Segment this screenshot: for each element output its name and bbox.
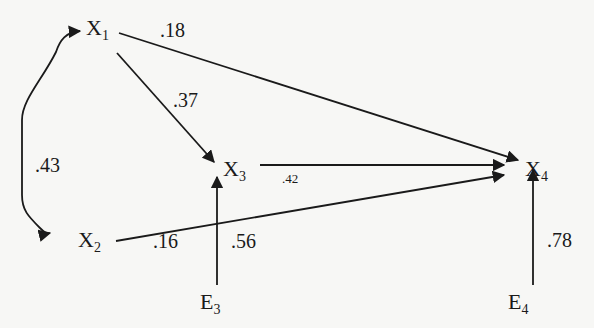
coef-x3-x4: .42 bbox=[282, 172, 298, 185]
node-x2: X2 bbox=[78, 229, 101, 255]
coef-e4-x4: .78 bbox=[547, 230, 572, 250]
diagram-edges bbox=[0, 0, 594, 328]
coef-x1-x2: .43 bbox=[35, 155, 60, 175]
node-x4: X4 bbox=[525, 158, 548, 184]
node-x1: X1 bbox=[86, 17, 109, 43]
node-e3: E3 bbox=[200, 291, 220, 317]
coef-e3-x3: .56 bbox=[231, 231, 256, 251]
node-e4: E4 bbox=[508, 291, 528, 317]
edge-x1-x3 bbox=[117, 53, 214, 162]
path-diagram: X1 X2 X3 X4 E3 E4 .43 .18 .37 .42 .16 .5… bbox=[0, 0, 594, 328]
coef-x1-x3: .37 bbox=[173, 90, 198, 110]
edge-x1-x2-correlation bbox=[22, 31, 80, 233]
node-x3: X3 bbox=[223, 158, 246, 184]
coef-x2-x4: .16 bbox=[153, 231, 178, 251]
coef-x1-x4: .18 bbox=[160, 20, 185, 40]
